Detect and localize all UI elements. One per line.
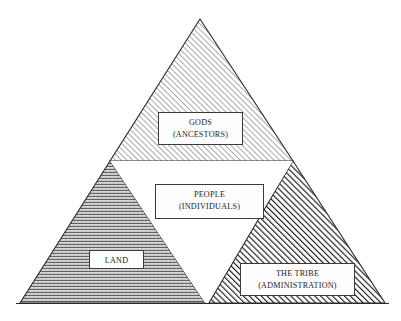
- land-label-box: LAND: [90, 251, 144, 269]
- gods-triangle[interactable]: GODS (ANCESTORS): [110, 19, 293, 161]
- triangle-figure: GODS (ANCESTORS) LAND THE TRIBE (ADMINIS…: [0, 0, 401, 321]
- land-label-line1: LAND: [105, 256, 128, 265]
- tribe-label-box: THE TRIBE (ADMINISTRATION): [241, 264, 355, 296]
- gods-label-box: GODS (ANCESTORS): [159, 113, 243, 145]
- tribe-label-line2: (ADMINISTRATION): [258, 281, 337, 290]
- people-label-line1: PEOPLE: [194, 190, 225, 199]
- gods-label-line2: (ANCESTORS): [173, 130, 228, 139]
- diagram-root: GODS (ANCESTORS) LAND THE TRIBE (ADMINIS…: [0, 0, 401, 321]
- people-label-line2: (INDIVIDUALS): [179, 202, 240, 211]
- tribe-label-line1: THE TRIBE: [276, 269, 319, 278]
- gods-label-line1: GODS: [189, 118, 212, 127]
- people-label-box: PEOPLE (INDIVIDUALS): [156, 185, 264, 219]
